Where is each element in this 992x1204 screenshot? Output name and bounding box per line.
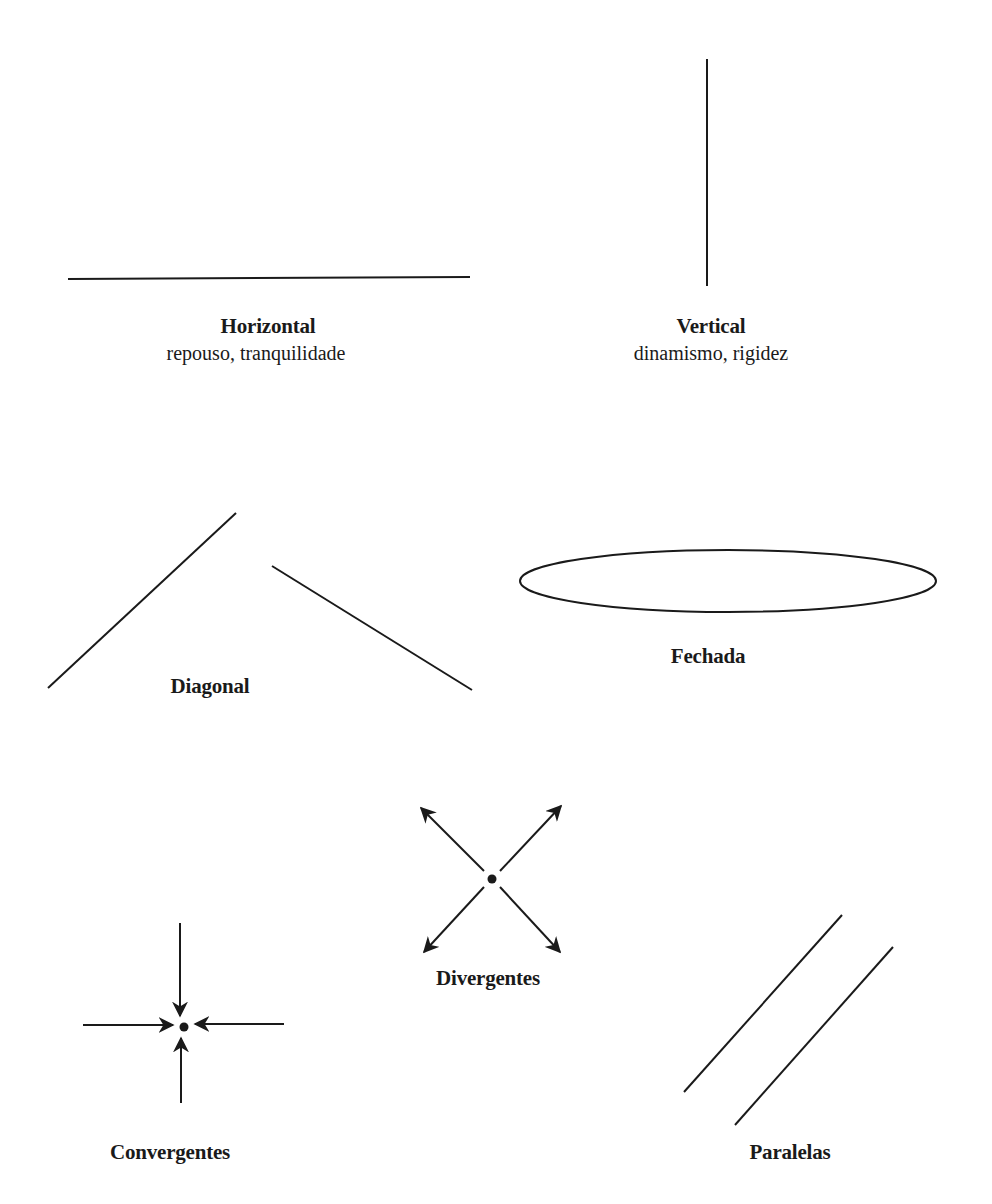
horizontal-line [68,277,470,279]
label-paralelas: Paralelas [749,1142,830,1163]
label-divergentes: Divergentes [436,968,540,989]
label-vertical: Vertical [677,316,746,337]
label-fechada: Fechada [671,646,745,667]
line-types-diagram [0,0,992,1204]
label-horizontal: Horizontal [221,316,316,337]
convergent-arrows [83,923,284,1103]
subtitle-vertical: dinamismo, rigidez [634,343,788,363]
closed-ellipse [520,550,936,612]
parallel-lines [684,915,893,1125]
label-convergentes: Convergentes [110,1142,230,1163]
diagonal-lines [48,513,472,690]
label-diagonal: Diagonal [171,676,250,697]
divergent-arrows [421,806,561,952]
subtitle-horizontal: repouso, tranquilidade [167,343,346,363]
